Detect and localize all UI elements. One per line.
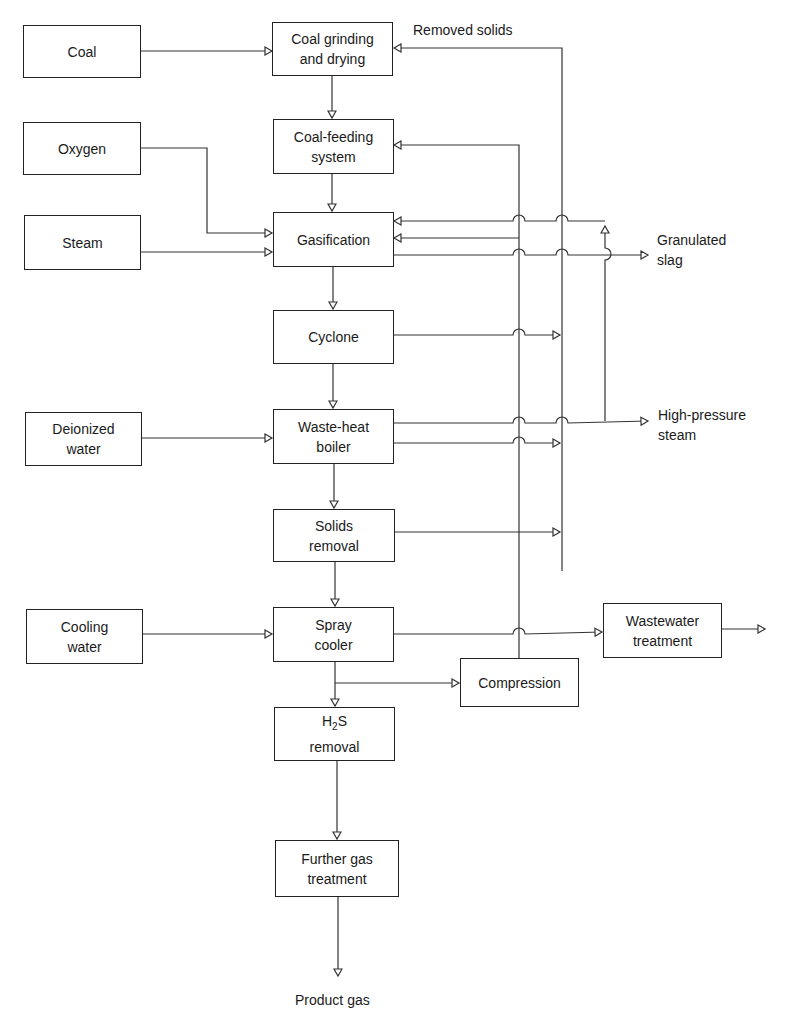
process-compression: Compression xyxy=(460,658,579,707)
h2s-h: H xyxy=(322,713,332,729)
label-product-gas: Product gas xyxy=(295,990,370,1010)
input-coal: Coal xyxy=(23,25,141,78)
process-h2s-removal: H2S removal xyxy=(274,707,395,761)
label-removed-solids: Removed solids xyxy=(413,20,513,40)
process-coal-grinding: Coal grinding and drying xyxy=(272,22,393,76)
h2s-s: S xyxy=(338,713,347,729)
process-waste-heat-boiler: Waste-heat boiler xyxy=(273,409,394,464)
input-steam: Steam xyxy=(24,215,141,270)
label-granulated-slag: Granulated slag xyxy=(657,230,726,270)
input-deionized-water: Deionized water xyxy=(25,412,142,466)
label-high-pressure-steam: High-pressure steam xyxy=(658,405,746,445)
process-further-gas-treatment: Further gas treatment xyxy=(275,840,399,897)
process-spray-cooler: Spray cooler xyxy=(273,607,394,662)
process-cyclone: Cyclone xyxy=(273,310,394,364)
process-gasification: Gasification xyxy=(273,212,394,267)
h2s-line2: removal xyxy=(310,737,360,757)
process-wastewater-treatment: Wastewater treatment xyxy=(603,603,722,658)
input-cooling-water: Cooling water xyxy=(26,609,143,664)
input-oxygen: Oxygen xyxy=(23,122,141,175)
process-coal-feeding: Coal-feeding system xyxy=(273,119,394,174)
process-solids-removal: Solids removal xyxy=(273,509,395,562)
